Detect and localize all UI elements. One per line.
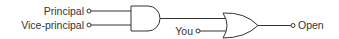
principal-label: Principal [44, 5, 84, 17]
logic-circuit-diagram: Principal Vice-principal You Open [0, 0, 339, 39]
open-output-label: Open [298, 19, 324, 31]
vice-principal-input-terminal [87, 23, 91, 27]
vice-principal-label: Vice-principal [21, 19, 84, 31]
principal-input-terminal [87, 9, 91, 13]
you-input-terminal [196, 29, 200, 33]
output-terminal [291, 24, 295, 28]
and-gate [131, 6, 160, 31]
or-gate [223, 13, 258, 38]
you-label: You [175, 25, 193, 37]
